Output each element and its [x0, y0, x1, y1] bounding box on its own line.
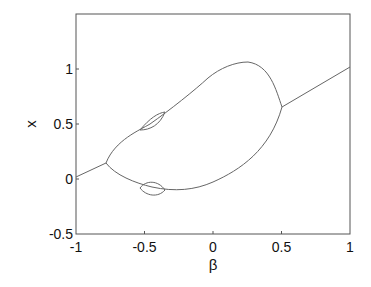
xtick-label: 0: [209, 239, 217, 255]
bifurcation-chart: -1 -0.5 0 0.5 1 -0.5 0 0.5 1 β x: [0, 0, 371, 287]
xtick-label: 0.5: [272, 239, 292, 255]
curves: [76, 62, 350, 195]
y-axis-label: x: [22, 120, 39, 128]
ytick-label: 0: [65, 171, 73, 187]
xtick-label: -0.5: [132, 239, 156, 255]
x-axis-label: β: [209, 256, 218, 273]
tick-marks: [76, 69, 282, 234]
plot-frame: [76, 14, 350, 234]
ytick-label: 0.5: [54, 116, 74, 132]
xtick-label: 1: [346, 239, 354, 255]
ytick-label: 1: [65, 61, 73, 77]
ytick-label: -0.5: [49, 226, 73, 242]
